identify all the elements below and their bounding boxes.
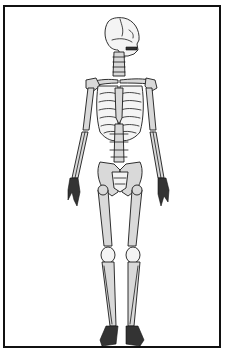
lower-legs — [102, 262, 140, 326]
skull — [105, 18, 139, 56]
left-arm — [68, 88, 94, 206]
feet — [100, 326, 144, 346]
knees — [101, 247, 140, 263]
right-arm — [146, 88, 169, 206]
cervical-spine — [113, 52, 125, 76]
skeleton-illustration — [0, 0, 227, 353]
femurs — [98, 185, 142, 246]
